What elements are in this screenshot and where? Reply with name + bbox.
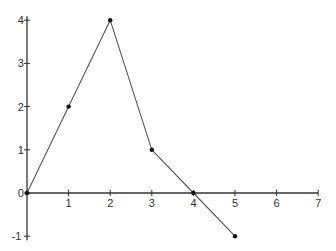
y-tick-label: 4	[18, 14, 24, 26]
data-point-marker	[108, 18, 112, 22]
y-tick-label: 2	[18, 101, 24, 113]
x-tick-label: 4	[190, 197, 196, 209]
y-tick-label: -1	[12, 230, 22, 242]
x-tick-label: 1	[66, 197, 72, 209]
series-line	[27, 20, 235, 236]
x-tick-label: 6	[274, 197, 280, 209]
x-tick-label: 7	[315, 197, 321, 209]
x-tick-label: 5	[232, 197, 238, 209]
y-tick-label: 0	[18, 187, 24, 199]
y-tick-label: 1	[18, 144, 24, 156]
series	[25, 18, 237, 238]
data-point-marker	[191, 191, 195, 195]
y-tick-label: 3	[18, 57, 24, 69]
line-chart: 1234567-101234	[0, 0, 336, 251]
x-tick-label: 3	[149, 197, 155, 209]
data-point-marker	[25, 191, 29, 195]
data-point-marker	[233, 234, 237, 238]
data-point-marker	[150, 148, 154, 152]
data-point-marker	[66, 104, 70, 108]
x-tick-label: 2	[107, 197, 113, 209]
